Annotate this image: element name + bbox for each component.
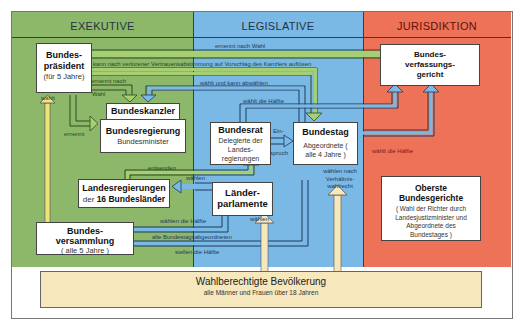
bundesverfassungsgericht-title: Bundes- verfassungs- gericht [381,50,479,80]
label-entsenden: entsenden [148,165,176,171]
bundespraesident-title: Bundes- präsident [37,50,91,72]
box-landesregierungen: Landesregierungen der 16 Bundesländer [78,179,170,208]
label-wahl: Wahl [92,91,105,97]
label-ernennt-nach-wahl: ernennt nach Wahl [215,43,265,49]
bundesregierung-sub: Bundesminister [117,137,169,146]
box-wahlberechtigte-bevoelkerung: Wahlberechtigte Bevölkerung alle Männer … [40,271,482,308]
box-laenderparlamente: Länder- parlamente [212,182,273,216]
box-bundespraesident: Bundes- präsident (für 5 Jahre) [36,43,92,93]
landesregierungen-title: Landesregierungen [79,183,169,194]
oberste-bundesgerichte-sub: ( Wahl der Richter durch Landesjustizmin… [382,205,480,239]
population-title: Wahlberechtigte Bevölkerung [41,276,481,287]
label-waehlt-die-haelfte-bundesrat: wählt die Hälfte [243,98,284,104]
label-waehlen-landesregierungen: wählen [186,175,205,181]
box-bundesversammlung: Bundes- versammlung ( alle 5 Jahre ) [36,222,134,255]
label-einspruch-b: spruch [270,150,288,156]
label-stellen-die-haelfte: stellen die Hälfte [175,249,219,255]
label-waehlen-nach-verhaeltniswahlrecht: wählen nach Verhältnis-wahlrecht [316,168,364,191]
bundesrat-sub: Delegierte der Landes-regierungen [211,136,270,163]
landesregierungen-sub: der 16 Bundesländer [83,195,165,204]
bundesrat-title: Bundesrat [211,125,270,136]
label-alle-bundestagsabgeordneten: alle Bundestagsabgeordneten [152,234,232,240]
box-bundeskanzler: Bundeskanzler [106,103,180,120]
box-oberste-bundesgerichte: Oberste Bundesgerichte ( Wahl der Richte… [381,176,481,241]
label-ernennt-nach: ernennt nach [91,78,126,84]
label-waehlt: wählt [41,95,55,101]
box-bundestag: Bundestag Abgeordnete ( alle 4 Jahre ) [293,122,358,165]
bundespraesident-term: (für 5 Jahre) [44,72,85,81]
box-bundesregierung: Bundesregierung Bundesminister [100,119,186,153]
label-waehlt-die-haelfte-bundestag: wählt die Hälfte [372,148,413,154]
label-ernennt: ernennt [64,131,84,137]
bundeskanzler-title: Bundeskanzler [107,104,179,119]
bundesregierung-title: Bundesregierung [101,126,185,137]
box-bundesrat: Bundesrat Delegierte der Landes-regierun… [210,122,271,165]
box-bundesverfassungsgericht: Bundes- verfassungs- gericht [380,44,480,86]
oberste-bundesgerichte-title: Oberste Bundesgerichte [382,183,480,203]
label-waehlen-die-haelfte: wählen die Hälfte [160,218,206,224]
label-waehlen-bevoelkerung: wählen [250,216,269,222]
population-sub: alle Männer und Frauen über 18 Jahren [41,289,481,296]
bundestag-title: Bundestag [294,127,357,138]
label-einspruch-a: Ein- [273,128,284,134]
bundestag-sub: Abgeordnete ( alle 4 Jahre ) [294,141,357,159]
label-aufloesen: kann nach verlorener Vertrauensabstimmun… [93,61,311,67]
laenderparlamente-title: Länder- parlamente [213,187,272,209]
bundesversammlung-term: ( alle 5 Jahre ) [61,246,109,255]
bundesversammlung-title: Bundes- versammlung [37,226,133,246]
label-waehlt-und-kann-abwaehlen: wählt und kann abwählen [200,80,268,86]
